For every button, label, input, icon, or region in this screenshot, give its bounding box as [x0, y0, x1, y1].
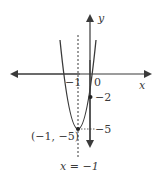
- y-axis-label: y: [97, 12, 105, 25]
- parabola-graph: y x −1 0 −2 −5 (−1, −5) x = −1: [0, 0, 160, 180]
- tick-0: 0: [94, 76, 101, 89]
- symmetry-label: x = −1: [60, 160, 99, 173]
- tick-neg5: −5: [95, 123, 111, 136]
- y-intercept-point: [89, 95, 93, 99]
- tick-neg1: −1: [65, 76, 81, 89]
- vertex-label: (−1, −5): [31, 130, 79, 143]
- tick-neg2: −2: [95, 91, 111, 104]
- x-axis-label: x: [139, 79, 146, 92]
